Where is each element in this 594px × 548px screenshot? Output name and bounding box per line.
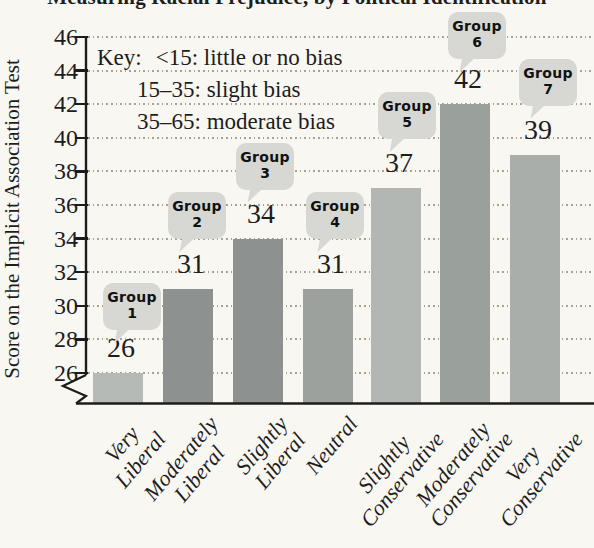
group-callout-number: 2 — [168, 214, 226, 231]
group-callout-number: 1 — [103, 305, 161, 322]
key-line-2: 15–35: slight bias — [137, 74, 342, 106]
bar-7 — [510, 155, 560, 403]
group-callout-word: Group — [168, 198, 226, 214]
group-callout: Group2 — [168, 192, 226, 239]
y-axis-tick-label: 42 — [26, 90, 78, 118]
y-axis-tick-label: 38 — [26, 157, 78, 185]
group-callout-word: Group — [378, 98, 436, 114]
group-callout-word: Group — [448, 18, 506, 34]
y-axis-title: Score on the Implicit Association Test — [0, 34, 26, 404]
bar-6 — [440, 104, 490, 403]
group-callout-number: 6 — [448, 34, 506, 51]
bar-value-label: 37 — [364, 146, 434, 180]
group-callout: Group1 — [103, 283, 161, 330]
group-callout-word: Group — [103, 289, 161, 305]
group-callout-word: Group — [519, 65, 577, 81]
group-callout-word: Group — [306, 198, 364, 214]
y-axis-tick-label: 32 — [26, 258, 78, 286]
bar-2 — [163, 289, 213, 403]
group-callout-number: 4 — [306, 214, 364, 231]
key-prefix: Key: — [97, 45, 142, 70]
clipped-title-strip: Measuring Racial Prejudice, by Political… — [0, 0, 594, 9]
key-range-1: <15: little or no bias — [156, 45, 343, 70]
group-callout-number: 5 — [378, 114, 436, 131]
bar-4 — [303, 289, 353, 403]
x-axis-label-4: Neutral — [301, 412, 363, 479]
group-callout: Group4 — [306, 192, 364, 239]
x-axis-label-3: Slightly Liberal — [231, 412, 311, 494]
bar-5 — [371, 188, 421, 403]
y-axis-tick-label: 28 — [26, 325, 78, 353]
group-callout: Group6 — [448, 12, 506, 59]
bar-value-label: 31 — [156, 247, 226, 281]
gridline — [88, 103, 594, 105]
bar-value-label: 34 — [226, 197, 296, 231]
y-axis-tick-label: 34 — [26, 225, 78, 253]
y-axis-tick-label: 26 — [26, 359, 78, 387]
group-callout-number: 7 — [519, 81, 577, 98]
group-callout: Group5 — [378, 92, 436, 139]
figure-title: Measuring Racial Prejudice, by Political… — [47, 0, 546, 9]
y-axis-tick-label: 36 — [26, 191, 78, 219]
group-callout-number: 3 — [236, 165, 294, 182]
group-callout: Group3 — [236, 143, 294, 190]
group-callout-word: Group — [236, 149, 294, 165]
bar-value-label: 31 — [296, 247, 366, 281]
bias-key: Key:<15: little or no bias 15–35: slight… — [97, 42, 342, 138]
y-axis-tick-label: 44 — [26, 57, 78, 85]
group-callout: Group7 — [519, 59, 577, 106]
bar-1 — [93, 373, 143, 403]
bar-3 — [233, 239, 283, 403]
key-line-3: 35–65: moderate bias — [137, 106, 342, 138]
y-axis-tick-label: 30 — [26, 292, 78, 320]
y-axis-tick-label: 46 — [26, 23, 78, 51]
figure-container: Measuring Racial Prejudice, by Political… — [0, 0, 594, 548]
y-axis-tick-label: 40 — [26, 124, 78, 152]
bar-value-label: 39 — [503, 113, 573, 147]
bar-value-label: 42 — [433, 62, 503, 96]
gridline — [88, 36, 594, 38]
